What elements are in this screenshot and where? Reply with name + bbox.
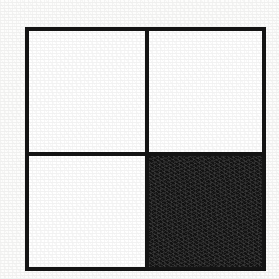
- figure-canvas: [0, 0, 279, 279]
- quadrant-bottom-left: [29, 156, 145, 267]
- horizontal-divider: [29, 152, 262, 156]
- quadrant-bottom-right-filled: [149, 156, 262, 267]
- outer-square-border: [25, 27, 266, 271]
- quadrant-top-right: [149, 31, 262, 152]
- vertical-divider: [145, 31, 149, 267]
- quadrant-top-left: [29, 31, 145, 152]
